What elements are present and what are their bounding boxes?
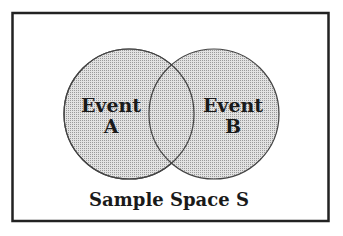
event-b-label-line2: B — [225, 115, 241, 137]
event-a-label-line1: Event — [81, 94, 141, 116]
sample-space-caption: Sample Space S — [89, 189, 249, 210]
venn-diagram: Event A Event B Sample Space S — [0, 0, 343, 236]
event-b-label-line1: Event — [203, 94, 263, 116]
event-a-label-line2: A — [103, 115, 119, 137]
